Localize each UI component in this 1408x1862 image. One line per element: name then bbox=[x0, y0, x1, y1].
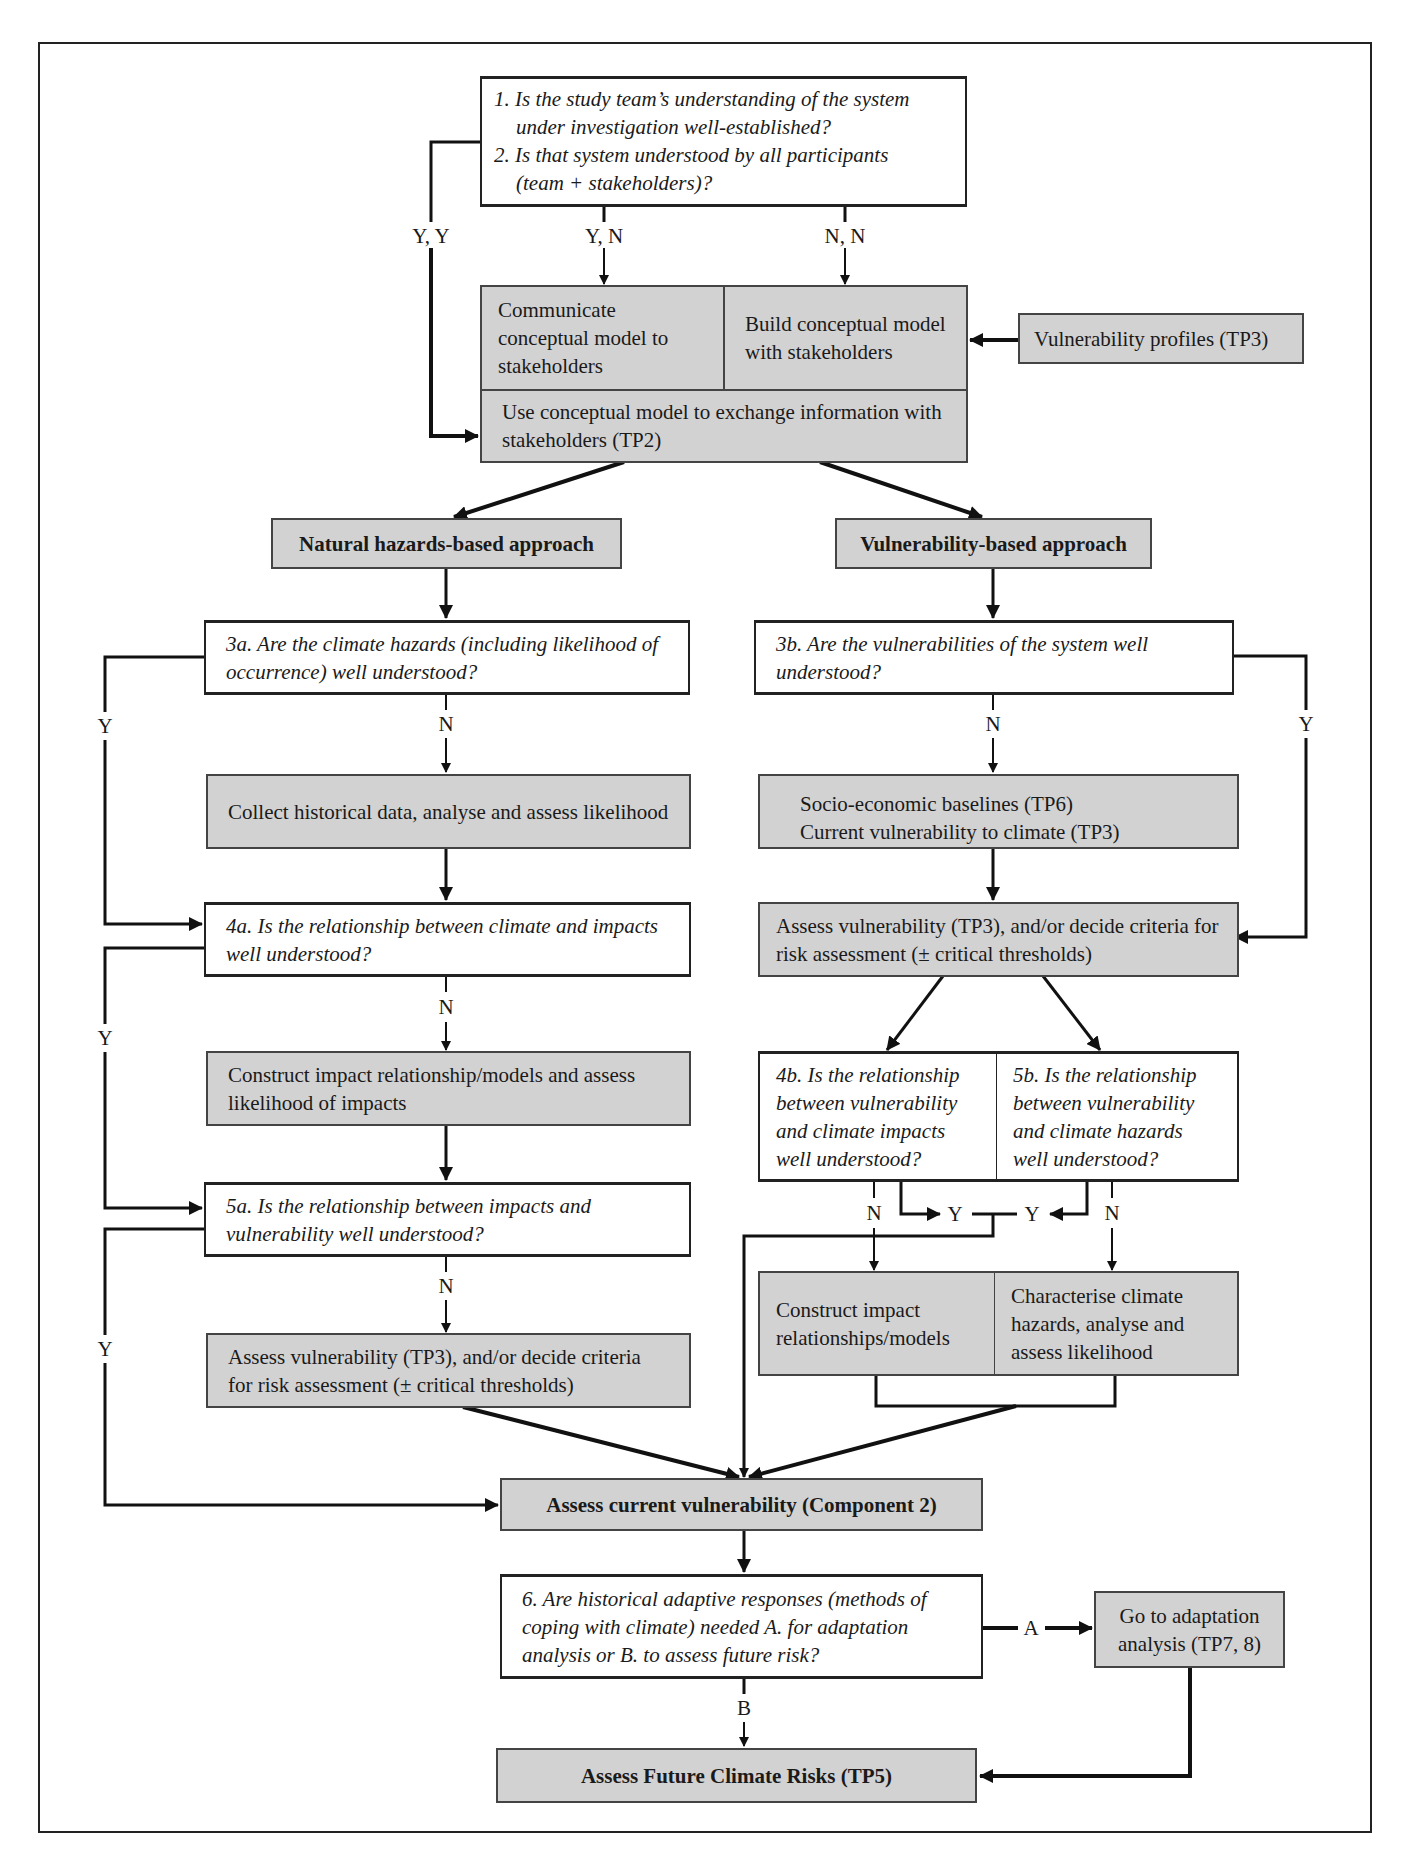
vulnerability-profiles-box: Vulnerability profiles (TP3) bbox=[1018, 313, 1304, 364]
label-6-a: A bbox=[1021, 1617, 1040, 1639]
go-to-adaptation-box: Go to adaptation analysis (TP7, 8) bbox=[1094, 1591, 1285, 1668]
construct-impact-left-box: Construct impact relationship/models and… bbox=[206, 1051, 691, 1126]
label-4a-y: Y bbox=[95, 1027, 114, 1049]
label-4a-n: N bbox=[436, 996, 455, 1018]
collect-historical-box: Collect historical data, analyse and ass… bbox=[206, 774, 691, 849]
assess-vulnerability-right-box: Assess vulnerability (TP3), and/or decid… bbox=[758, 902, 1239, 977]
q1-line1: 1. Is the study team’s understanding of … bbox=[494, 85, 953, 113]
q2-line1: 2. Is that system understood by all part… bbox=[494, 141, 953, 169]
question-4b-cell: 4b. Is the relationship between vulnerab… bbox=[760, 1054, 997, 1179]
label-3b-y: Y bbox=[1296, 713, 1315, 735]
question-1-2-box: 1. Is the study team’s understanding of … bbox=[480, 76, 967, 207]
label-6-b: B bbox=[735, 1697, 753, 1719]
question-5b-cell: 5b. Is the relationship between vulnerab… bbox=[997, 1054, 1237, 1179]
socio-line2: Current vulnerability to climate (TP3) bbox=[800, 818, 1197, 846]
conceptual-model-box: Communicate conceptual model to stakehol… bbox=[480, 285, 968, 463]
label-yn: Y, N bbox=[583, 225, 625, 247]
label-5a-y: Y bbox=[95, 1338, 114, 1360]
socio-line1: Socio-economic baselines (TP6) bbox=[800, 790, 1197, 818]
natural-hazards-approach-box: Natural hazards-based approach bbox=[271, 518, 622, 569]
label-yy: Y, Y bbox=[410, 225, 451, 247]
socio-economic-box: Socio-economic baselines (TP6) Current v… bbox=[758, 774, 1239, 849]
question-4b-5b-box: 4b. Is the relationship between vulnerab… bbox=[758, 1051, 1239, 1182]
label-3b-n: N bbox=[983, 713, 1002, 735]
q1-line2: under investigation well-established? bbox=[494, 113, 953, 141]
assess-vulnerability-left-box: Assess vulnerability (TP3), and/or decid… bbox=[206, 1333, 691, 1408]
question-3b-box: 3b. Are the vulnerabilities of the syste… bbox=[754, 620, 1234, 695]
communicate-cell: Communicate conceptual model to stakehol… bbox=[482, 287, 725, 391]
construct-characterise-box: Construct impact relationships/models Ch… bbox=[758, 1271, 1239, 1376]
vulnerability-approach-box: Vulnerability-based approach bbox=[835, 518, 1152, 569]
label-3a-y: Y bbox=[95, 715, 114, 737]
question-5a-box: 5a. Is the relationship between impacts … bbox=[204, 1182, 691, 1257]
exchange-cell: Use conceptual model to exchange informa… bbox=[482, 391, 966, 461]
label-nn: N, N bbox=[823, 225, 868, 247]
question-6-box: 6. Are historical adaptive responses (me… bbox=[500, 1574, 983, 1679]
assess-future-risks-box: Assess Future Climate Risks (TP5) bbox=[496, 1748, 977, 1803]
construct-impact-right-cell: Construct impact relationships/models bbox=[760, 1273, 995, 1374]
label-4b-n: N bbox=[864, 1202, 883, 1224]
assess-current-vulnerability-box: Assess current vulnerability (Component … bbox=[500, 1478, 983, 1531]
question-3a-box: 3a. Are the climate hazards (including l… bbox=[204, 620, 690, 695]
label-5b-n: N bbox=[1102, 1202, 1121, 1224]
label-3a-n: N bbox=[436, 713, 455, 735]
label-5b-y: Y bbox=[1022, 1203, 1041, 1225]
characterise-hazards-cell: Characterise climate hazards, analyse an… bbox=[995, 1273, 1237, 1374]
q2-line2: (team + stakeholders)? bbox=[494, 169, 953, 197]
question-4a-box: 4a. Is the relationship between climate … bbox=[204, 902, 691, 977]
label-4b-y: Y bbox=[945, 1203, 964, 1225]
build-cell: Build conceptual model with stakeholders bbox=[725, 287, 966, 391]
label-5a-n: N bbox=[436, 1275, 455, 1297]
